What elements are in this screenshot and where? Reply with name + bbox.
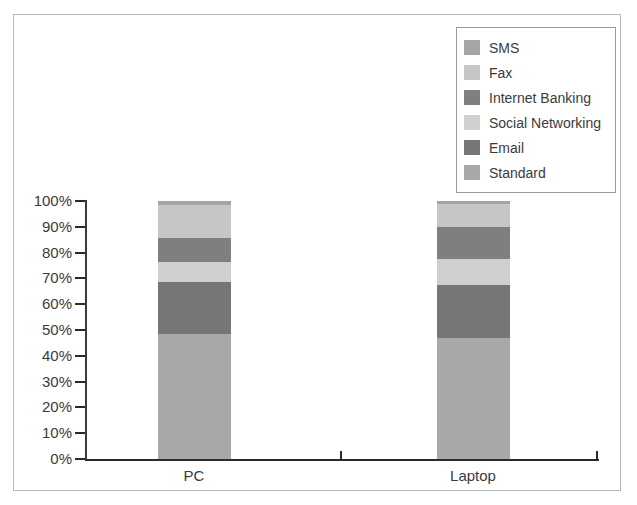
bar-segment[interactable] [437, 338, 510, 459]
legend-item[interactable]: Fax [464, 60, 609, 85]
bar-segment[interactable] [158, 262, 231, 283]
legend-item[interactable]: SMS [464, 35, 609, 60]
bar-segment[interactable] [437, 204, 510, 227]
x-axis-mid-tick [340, 451, 342, 460]
stacked-bar[interactable] [437, 201, 510, 459]
stacked-bar[interactable] [158, 201, 231, 459]
legend-item-label: Standard [489, 166, 546, 180]
legend-item-label: Email [489, 141, 524, 155]
legend-swatch-icon [464, 90, 480, 105]
y-axis-tick-label: 70% [12, 270, 72, 285]
legend-item-label: Social Networking [489, 116, 601, 130]
y-axis-tick-label: 80% [12, 245, 72, 260]
y-axis-line [85, 200, 87, 460]
x-axis-category-label: PC [134, 467, 254, 485]
y-axis-tick-labels: 100%90%80%70%60%50%40%30%20%10%0% [8, 0, 72, 505]
chart-container: 100%90%80%70%60%50%40%30%20%10%0% PCLapt… [0, 0, 637, 505]
legend-item-label: Internet Banking [489, 91, 591, 105]
legend-item[interactable]: Internet Banking [464, 85, 609, 110]
y-axis-tick-label: 20% [12, 399, 72, 414]
y-axis-tick-label: 0% [12, 451, 72, 466]
y-axis-tick-label: 90% [12, 219, 72, 234]
y-axis-tick-label: 50% [12, 322, 72, 337]
x-axis-line [85, 459, 599, 461]
legend-item[interactable]: Social Networking [464, 110, 609, 135]
legend-swatch-icon [464, 40, 480, 55]
y-axis-tick-label: 40% [12, 348, 72, 363]
bar-segment[interactable] [158, 282, 231, 334]
bar-segment[interactable] [437, 285, 510, 338]
x-axis-end-tick [596, 451, 598, 460]
bar-segment[interactable] [437, 227, 510, 259]
legend-swatch-icon [464, 115, 480, 130]
bar-segment[interactable] [158, 334, 231, 459]
legend-swatch-icon [464, 65, 480, 80]
y-axis-tick-label: 100% [12, 193, 72, 208]
legend-item[interactable]: Email [464, 135, 609, 160]
legend-item-label: SMS [489, 41, 519, 55]
bar-segment[interactable] [158, 205, 231, 239]
bar-segment[interactable] [158, 238, 231, 261]
chart-legend: SMSFaxInternet BankingSocial NetworkingE… [456, 27, 616, 193]
y-axis-tick-label: 30% [12, 374, 72, 389]
bar-segment[interactable] [437, 259, 510, 285]
y-axis-tick-label: 60% [12, 296, 72, 311]
x-axis-category-label: Laptop [413, 467, 533, 485]
y-axis-tick-label: 10% [12, 425, 72, 440]
legend-swatch-icon [464, 140, 480, 155]
legend-swatch-icon [464, 165, 480, 180]
legend-item-label: Fax [489, 66, 512, 80]
legend-item[interactable]: Standard [464, 160, 609, 185]
